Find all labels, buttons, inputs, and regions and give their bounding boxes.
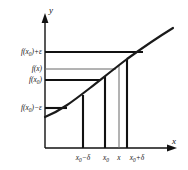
x-tick-label-x0: x0 [103, 154, 109, 161]
epsilon-glyph: ε [39, 47, 42, 56]
subscript: 0 [133, 157, 136, 163]
x-tick-label-x0-plus-delta: x0+δ [130, 154, 145, 161]
subscript: 0 [106, 157, 109, 163]
subscript: 0 [79, 157, 82, 163]
figure-canvas [0, 0, 188, 170]
x-glyph: x [117, 153, 120, 162]
x-axis-label: x [172, 137, 176, 146]
y-axis-arrowhead-icon [42, 13, 49, 23]
delta-glyph: δ [141, 153, 144, 162]
delta-glyph: δ [87, 153, 90, 162]
subscript: 0 [37, 79, 40, 85]
y-tick-label-f-x: f(x) [32, 65, 42, 72]
epsilon-glyph: ε [39, 103, 42, 112]
y-tick-label-f-x0-plus-epsilon: f(x0)+ε [21, 48, 42, 55]
function-curve [45, 28, 173, 117]
y-axis-label: y [49, 6, 53, 15]
epsilon-delta-continuity-figure: y x f(x0)+ε f(x) f(x0) f(x0)−ε x0−δ x0 x… [0, 0, 188, 170]
x-tick-label-x: x [117, 154, 120, 161]
y-tick-label-f-x0-minus-epsilon: f(x0)−ε [21, 104, 42, 111]
y-tick-label-f-x0: f(x0) [29, 76, 42, 83]
paren-close: ) [40, 64, 42, 73]
x-tick-label-x0-minus-delta: x0−δ [76, 154, 91, 161]
